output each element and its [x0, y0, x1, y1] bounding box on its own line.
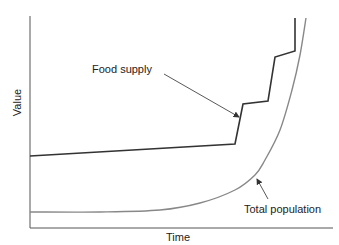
- total-population-curve: [30, 18, 306, 212]
- food-supply-line: [30, 18, 295, 156]
- population-arrow: [257, 179, 268, 199]
- food-supply-arrow: [164, 74, 239, 117]
- food-supply-label: Food supply: [92, 64, 152, 75]
- y-axis-label: Value: [12, 89, 23, 116]
- total-population-label: Total population: [244, 204, 321, 215]
- x-axis-label: Time: [166, 232, 190, 243]
